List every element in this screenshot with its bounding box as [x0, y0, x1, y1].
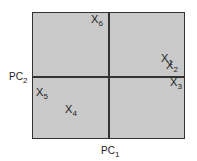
x-axis-label: PC1 [101, 146, 119, 160]
y-axis-label: PC2 [9, 72, 27, 86]
point-subscript: 4 [72, 109, 76, 118]
point-subscript: 6 [98, 19, 102, 28]
point-subscript: 3 [177, 82, 181, 91]
point-x2: X2 [166, 60, 178, 75]
y-axis-subscript: 2 [23, 76, 27, 85]
point-x4: X4 [65, 104, 77, 119]
point-subscript: 2 [173, 65, 177, 74]
x-axis-subscript: 1 [115, 150, 119, 159]
point-x6: X6 [91, 14, 103, 29]
point-subscript: 5 [43, 92, 47, 101]
plot-area [32, 12, 185, 139]
point-x5: X5 [36, 87, 48, 102]
x-axis-text: PC [101, 145, 115, 156]
point-x3: X3 [170, 77, 182, 92]
y-axis-text: PC [9, 71, 23, 82]
horizontal-axis-line [33, 76, 184, 78]
